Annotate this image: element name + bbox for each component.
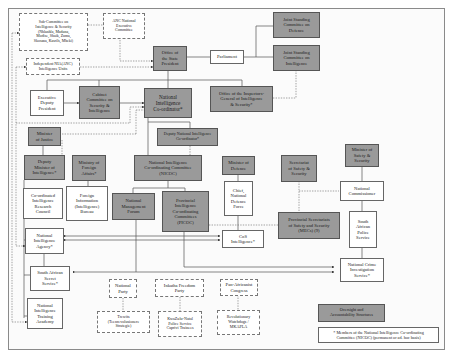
- national-intelligence-agency: National Intelligence Agency*: [25, 228, 64, 254]
- office-inspectors-general: Office of the Inspectors- General of Int…: [210, 86, 273, 112]
- office-state-president: Office of the State President: [153, 46, 187, 71]
- minister-safety-security: Minister of Safety & Security: [345, 144, 379, 167]
- pan-africanist-congress: Pan-Africanist Congress: [220, 279, 258, 296]
- kwazulu-natal-police-service: KwaZulu-Natal Police Service Caprivi Tra…: [158, 311, 202, 337]
- south-african-police-service: South African Police Service: [349, 211, 377, 248]
- inkatha-freedom-party: Inkatha Freedom Party: [155, 279, 204, 297]
- south-african-secret-service: South African Secret Service*: [30, 266, 70, 291]
- parliament: Parliament: [210, 50, 244, 64]
- jsc-defence: Joint Standing Committee on Defence: [273, 12, 320, 38]
- national-crime-investigation-service: National Crime Investigation Service*: [340, 258, 384, 282]
- legend-footnote-nicoc-members: * Members of the National Intelligence C…: [318, 327, 439, 343]
- deputy-minister-of-intelligence: Deputy Minister of Intelligence*: [24, 155, 65, 180]
- executive-deputy-president: Executive Deputy President: [30, 90, 64, 116]
- independent-intelligence-units: Independent NIA(ANC) Intelligence Units: [26, 58, 80, 75]
- cabinet-committee-security-intelligence: Cabinet Committee on Security & Intellig…: [79, 86, 120, 119]
- jsc-intelligence: Joint Standing Committee on Intelligence: [273, 45, 320, 71]
- chief-national-defence-force: Chief, National Defence Force: [224, 181, 253, 216]
- national-intelligence-coordinator: National Intelligence Co-ordinator*: [144, 88, 192, 118]
- foreign-information-bureau: Foreign Information (Intelligence) Burea…: [66, 186, 108, 221]
- trewits: Trewits (Teenrevolusionere Strategie): [97, 311, 150, 333]
- legend-oversight-structures: Oversight and Accountability Structures: [318, 304, 385, 322]
- ministry-of-foreign-affairs: Ministry of Foreign Affairs*: [72, 155, 106, 181]
- anc-national-executive-committee: ANC National Executive Committee: [103, 13, 145, 39]
- nicoc: National Intelligence Co-ordinating Comm…: [134, 155, 202, 181]
- coordinated-intelligence-research-council: Co-ordinated Intelligence Research Counc…: [23, 188, 63, 219]
- national-party: National Party: [109, 279, 137, 298]
- minister-of-justice: Minister of Justice: [28, 127, 61, 146]
- revolutionary-watchdogs: Revolutionary Watchdogs / MKAPLA: [217, 310, 260, 335]
- deputy-national-intelligence-coordinator: Deputy National Intelligence Co-ordinato…: [157, 128, 218, 146]
- national-commissioner: National Commissioner: [340, 181, 384, 201]
- sub-committee-intelligence-security: Sub-Committee on Intelligence & Security…: [19, 13, 88, 51]
- national-intelligence-training-academy: National Intelligence Training Academy: [27, 298, 63, 329]
- provincial-secretariats-safety-security: Provincial Secretariats of Safety and Se…: [278, 212, 340, 239]
- picoc: Provincial Intelligence Co-ordinating Co…: [162, 191, 209, 232]
- national-management-forum: National Management Forum: [112, 193, 155, 220]
- minister-of-defence: Minister of Defence: [222, 156, 255, 175]
- secretariat-safety-security: Secretariat of Safety & Security: [281, 155, 317, 182]
- cos-intelligence: CoS Intelligence*: [222, 230, 264, 248]
